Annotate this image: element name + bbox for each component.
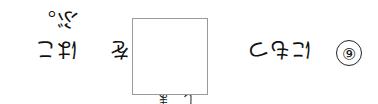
question-number: ⑥ <box>336 40 362 66</box>
text-before-box: にもつ <box>247 37 312 67</box>
worksheet-item: ⑥ にもつ しま を はこぶ。 <box>0 0 378 104</box>
text-after-box: はこぶ。 <box>0 7 78 67</box>
answer-box[interactable] <box>132 18 208 95</box>
particle-after-box: を <box>109 37 130 67</box>
